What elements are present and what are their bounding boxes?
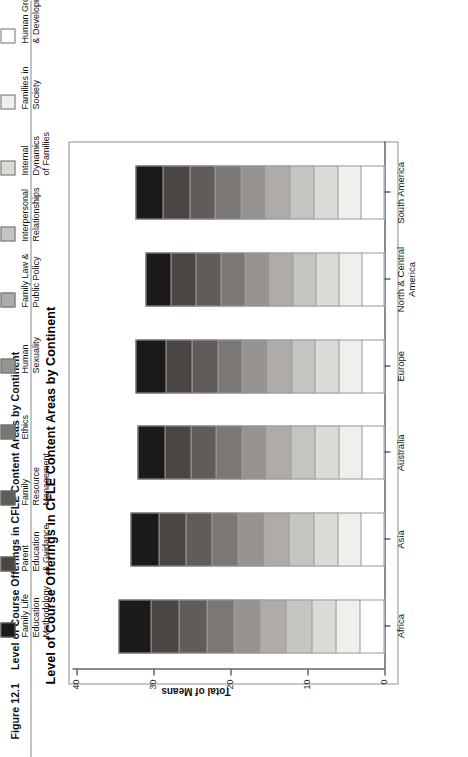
bar-segment[interactable] [191,425,216,479]
category-axis-label: Africa [394,581,405,671]
legend-swatch-icon [0,490,15,505]
table-row[interactable] [0,512,384,566]
bar-segment[interactable] [242,339,267,393]
value-axis-tick [76,669,77,675]
category-axis-tick [384,451,390,452]
bar-segment[interactable] [179,599,207,653]
bar-segment[interactable] [135,165,163,219]
bar-segment[interactable] [339,425,362,479]
bar-segment[interactable] [171,252,196,306]
legend-swatch-icon [0,226,15,241]
bar-segment[interactable] [293,252,316,306]
bar-segment[interactable] [165,425,191,479]
bar-segment[interactable] [245,252,269,306]
bar-segment[interactable] [212,512,238,566]
bar-segment[interactable] [290,165,314,219]
bar-segment[interactable] [292,339,316,393]
category-axis-tick [384,191,390,192]
category-axis-tick [384,625,390,626]
value-axis-tick [153,669,154,675]
value-axis-title: Total of Means [116,686,276,697]
category-axis-line [384,141,385,669]
bar-segment[interactable] [118,599,151,653]
bar-segment[interactable] [192,339,217,393]
bar-segment[interactable] [269,252,293,306]
category-axis-tick [384,538,390,539]
bar-segment[interactable] [362,339,384,393]
bar-segment[interactable] [339,252,361,306]
bar-segment[interactable] [312,599,337,653]
bar-segment[interactable] [241,165,266,219]
legend-item-label: Families in Society [19,47,40,109]
bar-segment[interactable] [291,425,315,479]
bar-segment[interactable] [130,512,159,566]
bar-segment[interactable] [215,165,240,219]
bar-segment[interactable] [339,339,362,393]
bar-segment[interactable] [336,599,360,653]
bar-segment[interactable] [186,512,212,566]
bar-segment[interactable] [145,252,171,306]
bar-segment[interactable] [267,339,292,393]
table-row[interactable] [0,252,384,306]
bar-segment[interactable] [190,165,215,219]
figure-page: Figure 12.1Level of Course Offerings in … [0,0,468,757]
bar-segment[interactable] [265,165,290,219]
bar-segment[interactable] [242,425,267,479]
bar-segment[interactable] [338,165,361,219]
bar-segment[interactable] [151,599,179,653]
bar-segment[interactable] [234,599,260,653]
table-row[interactable] [0,425,384,479]
bar-segment[interactable] [314,165,338,219]
figure-number: Figure 12.1 [8,682,20,739]
table-row[interactable] [0,165,384,219]
value-axis-tick-label: 10 [301,679,311,703]
bar-segment[interactable] [315,425,339,479]
table-row[interactable] [0,599,384,653]
bar-segment[interactable] [362,252,384,306]
category-axis-label: Asia [394,494,405,584]
bar-segment[interactable] [135,339,166,393]
bar-segment[interactable] [361,512,384,566]
bar-segment[interactable] [221,252,246,306]
bar-segment[interactable] [315,339,338,393]
category-axis-label: Europe [394,321,405,411]
value-axis-tick-label: 20 [224,679,234,703]
bar-segment[interactable] [137,425,165,479]
table-row[interactable] [0,339,384,393]
bar-segment[interactable] [163,165,190,219]
value-axis-line [72,668,384,669]
value-axis-tick-label: 40 [70,679,80,703]
bar-segment[interactable] [260,599,286,653]
bar-segment[interactable] [166,339,192,393]
bar-segment[interactable] [314,512,338,566]
bar-segment[interactable] [361,165,384,219]
legend-item-label: Human Growth & Development [19,0,40,43]
bar-segment[interactable] [207,599,234,653]
bar-segment[interactable] [264,512,289,566]
bar-segment[interactable] [218,339,243,393]
category-axis-tick [384,365,390,366]
bar-segment[interactable] [362,425,384,479]
bar-segment[interactable] [159,512,186,566]
category-axis-label: Australia [394,407,405,497]
category-axis-label: South America [394,147,405,237]
bar-segment[interactable] [289,512,314,566]
value-axis-tick-label: 0 [378,679,388,703]
category-axis-label: North & Central America [394,234,416,324]
value-axis-tick [307,669,308,675]
value-axis-tick [230,669,231,675]
value-axis-tick [384,669,385,675]
bar-segment[interactable] [216,425,241,479]
bar-segment[interactable] [196,252,221,306]
category-axis-tick [384,278,390,279]
bar-segment[interactable] [266,425,291,479]
value-axis-tick-label: 30 [147,679,157,703]
legend-swatch-icon [0,28,15,43]
legend-swatch-icon [0,94,15,109]
bar-segment[interactable] [238,512,263,566]
bar-segment[interactable] [360,599,384,653]
bar-segment[interactable] [286,599,311,653]
bar-segment[interactable] [338,512,361,566]
bar-segment[interactable] [316,252,339,306]
rotated-figure-stage: Figure 12.1Level of Course Offerings in … [0,0,468,757]
